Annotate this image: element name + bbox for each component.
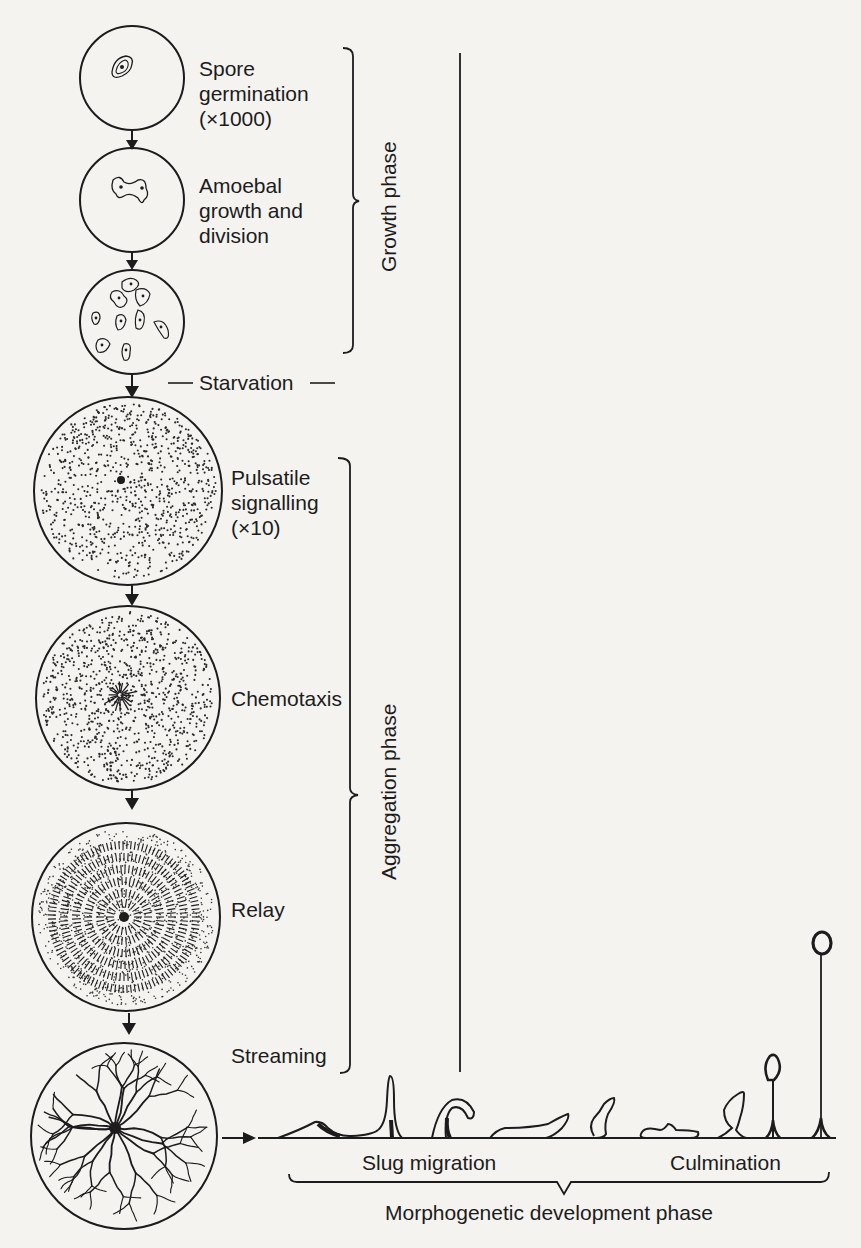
label-line: germination bbox=[199, 81, 309, 106]
slug-migration-label: Slug migration bbox=[362, 1150, 496, 1175]
label-line: Pulsatile bbox=[231, 465, 319, 490]
label-line: division bbox=[199, 223, 303, 248]
stage-label-pulsatile-signalling: Pulsatile signalling (×10) bbox=[231, 465, 319, 540]
relay-circle bbox=[32, 823, 220, 1011]
stage-label-spore-germination: Spore germination (×1000) bbox=[199, 56, 309, 131]
cell-field-dots bbox=[41, 403, 217, 578]
label-line: (×1000) bbox=[199, 106, 309, 131]
cell-field-dots bbox=[43, 611, 213, 782]
life-cycle-diagram: Spore germination (×1000) Amoebal growth… bbox=[0, 0, 861, 1248]
aggregation-phase-bracket bbox=[338, 458, 358, 1073]
dividing-amoeba-icon bbox=[112, 177, 148, 202]
label-line: Spore bbox=[199, 56, 309, 81]
arrow-down-icon bbox=[125, 798, 139, 810]
stage-label-streaming: Streaming bbox=[231, 1043, 327, 1068]
arrow-down-icon bbox=[122, 1023, 136, 1035]
amoebae-group-icon bbox=[92, 278, 169, 360]
stage-label-relay: Relay bbox=[231, 897, 285, 922]
morphogenetic-phase-label: Morphogenetic development phase bbox=[385, 1200, 713, 1225]
signalling-centre-dot bbox=[117, 476, 125, 484]
arrow-down-icon bbox=[125, 594, 139, 606]
label-line: (×10) bbox=[231, 515, 319, 540]
diagram-artwork bbox=[0, 0, 861, 1248]
chemotaxis-circle bbox=[36, 606, 220, 790]
arrow-down-icon bbox=[126, 260, 138, 270]
starvation-label: Starvation bbox=[199, 370, 294, 395]
label-line: growth and bbox=[199, 198, 303, 223]
morphogenetic-phase-bracket bbox=[289, 1172, 829, 1194]
label-line: signalling bbox=[231, 490, 319, 515]
amoebal-growth-circle bbox=[80, 148, 184, 252]
streaming-circle bbox=[31, 1043, 217, 1229]
growth-phase-label: Growth phase bbox=[377, 141, 401, 272]
aggregation-phase-label: Aggregation phase bbox=[377, 704, 401, 880]
streaming-branches-icon bbox=[38, 1050, 207, 1221]
relay-centre-dot bbox=[119, 912, 129, 922]
spore-icon bbox=[112, 56, 132, 77]
label-line: Amoebal bbox=[199, 173, 303, 198]
growth-phase-bracket bbox=[343, 48, 359, 353]
pulsatile-signalling-circle bbox=[34, 397, 222, 585]
arrow-right-icon bbox=[243, 1132, 256, 1144]
stage-label-chemotaxis: Chemotaxis bbox=[231, 686, 342, 711]
culmination-label: Culmination bbox=[670, 1150, 781, 1175]
spore-germination-circle bbox=[80, 26, 184, 130]
stage-label-amoebal-growth: Amoebal growth and division bbox=[199, 173, 303, 248]
morphogenesis-forms-icon bbox=[278, 932, 831, 1138]
vegetative-amoebae-circle bbox=[80, 270, 184, 374]
